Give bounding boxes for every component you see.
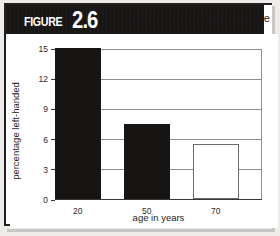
x-axis-title: age in years [55, 212, 262, 223]
y-tick-mark [51, 200, 55, 201]
y-tick-label: 12 [39, 74, 48, 84]
bar-20 [55, 48, 101, 199]
bar-50 [124, 124, 170, 200]
y-tick-label: 0 [43, 195, 48, 205]
y-axis-title: percentage left-handed [10, 82, 21, 180]
x-axis-line [55, 199, 262, 200]
figure-container: FIGURE 2.6 Handedness as a function of a… [0, 0, 280, 236]
figure-label-word: FIGURE [24, 14, 62, 29]
y-tick-label: 3 [43, 165, 48, 175]
frame-shadow-bottom [7, 229, 275, 232]
y-tick-label: 9 [43, 104, 48, 114]
y-tick-label: 15 [39, 44, 48, 54]
y-tick-label: 6 [43, 135, 48, 145]
plot-area: 03691215205070 [55, 49, 262, 200]
bar-70 [193, 144, 239, 199]
figure-number: 2.6 [72, 7, 98, 34]
figure-title: Handedness as a function of age [112, 12, 270, 24]
figure-frame: FIGURE 2.6 Handedness as a function of a… [4, 3, 272, 226]
plot-right-border [261, 49, 262, 200]
chart-area: percentage left-handed 03691215205070 ag… [10, 34, 278, 228]
